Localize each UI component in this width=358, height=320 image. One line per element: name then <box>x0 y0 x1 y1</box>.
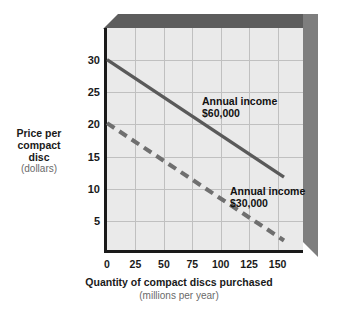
series-line-income-30000 <box>107 123 284 240</box>
x-axis-label-units: (millions per year) <box>38 289 320 302</box>
annotation-income-30000: Annual income $30,000 <box>230 185 305 209</box>
y-tick-10: 10 <box>74 183 100 195</box>
y-axis-label-line1: Price per <box>6 127 72 139</box>
series-layer <box>107 28 303 250</box>
annotation-30000-line2: $30,000 <box>230 197 305 209</box>
y-tick-30: 30 <box>74 54 100 66</box>
x-tick-125: 125 <box>240 258 258 270</box>
x-axis-label-main: Quantity of compact discs purchased <box>38 276 320 289</box>
y-axis-label: Price per compact disc (dollars) <box>6 127 72 175</box>
x-axis-ticks: 0 25 50 75 100 125 150 <box>107 258 306 272</box>
y-tick-5: 5 <box>74 215 100 227</box>
annotation-60000-line2: $60,000 <box>202 107 277 119</box>
y-tick-20: 20 <box>74 118 100 130</box>
annotation-60000-line1: Annual income <box>202 95 277 107</box>
x-tick-75: 75 <box>186 258 198 270</box>
frame-top-bevel <box>103 14 318 29</box>
x-tick-100: 100 <box>212 258 230 270</box>
x-tick-0: 0 <box>104 258 110 270</box>
y-tick-15: 15 <box>74 151 100 163</box>
annotation-30000-line1: Annual income <box>230 185 305 197</box>
annotation-income-60000: Annual income $60,000 <box>202 95 277 119</box>
x-tick-150: 150 <box>269 258 287 270</box>
x-axis-label: Quantity of compact discs purchased (mil… <box>38 276 320 302</box>
frame-right-bevel <box>303 14 318 257</box>
y-axis-label-line2: compact disc <box>6 139 72 163</box>
y-tick-25: 25 <box>74 86 100 98</box>
chart-figure: Annual income $60,000 Annual income $30,… <box>0 0 358 320</box>
y-axis-ticks: 5 10 15 20 25 30 <box>72 28 100 253</box>
x-tick-50: 50 <box>158 258 170 270</box>
x-tick-25: 25 <box>130 258 142 270</box>
plot-area: Annual income $60,000 Annual income $30,… <box>104 28 303 253</box>
y-axis-label-units: (dollars) <box>6 163 72 175</box>
